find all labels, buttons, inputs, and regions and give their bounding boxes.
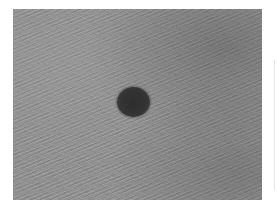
skin-photo	[13, 9, 262, 200]
mole-lesion	[117, 87, 150, 117]
edge-line	[274, 60, 275, 190]
